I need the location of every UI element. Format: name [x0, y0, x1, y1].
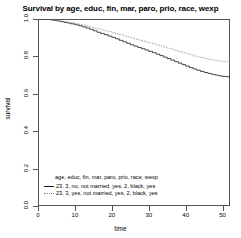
plot-title: Survival by age, educ, fin, mar, paro, p… — [0, 4, 241, 13]
y-tick-mark — [33, 56, 38, 57]
x-tick-mark — [75, 206, 76, 211]
legend-title: age, educ, fin, mar, paro, prio, race, w… — [44, 174, 174, 180]
legend-label-series-1: 23, 3, no, not married, yes, 2, black, y… — [56, 183, 155, 189]
y-tick-label: 0.6 — [23, 86, 29, 100]
x-tick-mark — [149, 206, 150, 211]
survival-curve-2 — [38, 19, 230, 62]
survival-plot: Survival by age, educ, fin, mar, paro, p… — [0, 0, 241, 238]
y-tick-mark — [33, 169, 38, 170]
y-tick-label: 0.0 — [23, 198, 29, 212]
x-tick-mark — [38, 206, 39, 211]
legend-item-series-1: 23, 3, no, not married, yes, 2, black, y… — [44, 183, 174, 190]
y-tick-label: 1.0 — [23, 11, 29, 25]
y-axis-label: survival — [4, 88, 11, 130]
x-tick-mark — [223, 206, 224, 211]
y-tick-mark — [33, 131, 38, 132]
legend-label-series-2: 23, 3, yes, not married, yes, 2, black, … — [56, 190, 158, 196]
y-tick-label: 0.8 — [23, 48, 29, 62]
x-tick-label: 40 — [179, 212, 193, 218]
x-tick-label: 0 — [31, 212, 45, 218]
x-tick-label: 20 — [105, 212, 119, 218]
y-tick-mark — [33, 19, 38, 20]
x-tick-mark — [186, 206, 187, 211]
survival-curve-1 — [38, 19, 230, 77]
legend: age, educ, fin, mar, paro, prio, race, w… — [44, 174, 174, 197]
x-axis-label: time — [0, 225, 241, 232]
y-tick-label: 0.2 — [23, 161, 29, 175]
legend-line-solid-icon — [44, 184, 54, 189]
x-tick-label: 30 — [142, 212, 156, 218]
legend-item-series-2: 23, 3, yes, not married, yes, 2, black, … — [44, 190, 174, 197]
x-tick-label: 50 — [216, 212, 230, 218]
legend-line-dotted-icon — [44, 191, 54, 196]
x-tick-mark — [112, 206, 113, 211]
x-tick-label: 10 — [68, 212, 82, 218]
y-tick-label: 0.4 — [23, 123, 29, 137]
y-tick-mark — [33, 94, 38, 95]
